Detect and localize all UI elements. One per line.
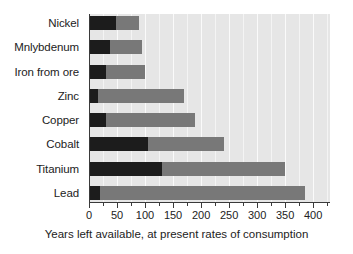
axis-tick-minor xyxy=(131,203,132,206)
x-axis-tick-labels: 050100150200250300350400 xyxy=(89,209,330,223)
axis-tick-minor xyxy=(271,203,272,206)
axis-tick-label: 50 xyxy=(111,209,123,221)
axis-tick xyxy=(89,203,90,208)
bar-segment-light xyxy=(116,16,140,30)
category-label: Copper xyxy=(0,111,84,129)
bar-row xyxy=(89,184,330,202)
category-label: Cobalt xyxy=(0,135,84,153)
bar-row xyxy=(89,160,330,178)
category-label: Lead xyxy=(0,184,84,202)
axis-tick-minor xyxy=(243,203,244,206)
axis-tick xyxy=(285,203,286,208)
axis-tick-label: 0 xyxy=(86,209,92,221)
category-label: Nickel xyxy=(0,14,84,32)
bar-segment-dark xyxy=(89,16,116,30)
bar-segment-light xyxy=(100,186,305,200)
axis-tick xyxy=(145,203,146,208)
bar-segment-dark xyxy=(89,113,106,127)
bar-row xyxy=(89,111,330,129)
axis-tick xyxy=(257,203,258,208)
axis-tick-label: 150 xyxy=(164,209,182,221)
axis-tick-label: 300 xyxy=(248,209,266,221)
axis-tick xyxy=(313,203,314,208)
bar-series-group xyxy=(89,14,330,202)
category-label: Mnlybdenum xyxy=(0,38,84,56)
axis-tick-minor xyxy=(299,203,300,206)
axis-tick-minor xyxy=(187,203,188,206)
bar-segment-light xyxy=(98,89,184,103)
x-axis-title: Years left available, at present rates o… xyxy=(0,228,353,240)
bar-segment-light xyxy=(106,113,196,127)
axis-tick-label: 400 xyxy=(304,209,322,221)
axis-tick-minor xyxy=(159,203,160,206)
bar-segment-light xyxy=(106,65,145,79)
category-axis-labels: NickelMnlybdenumIron from oreZincCopperC… xyxy=(0,14,84,202)
axis-tick xyxy=(173,203,174,208)
bar-row xyxy=(89,38,330,56)
y-axis-line xyxy=(89,14,90,202)
bar-segment-dark xyxy=(89,40,110,54)
plot-area xyxy=(89,14,330,202)
category-label: Zinc xyxy=(0,87,84,105)
bar-row xyxy=(89,63,330,81)
axis-tick xyxy=(117,203,118,208)
axis-tick-label: 350 xyxy=(276,209,294,221)
bar-segment-light xyxy=(162,162,285,176)
axis-tick-minor xyxy=(215,203,216,206)
axis-tick xyxy=(201,203,202,208)
bar-segment-dark xyxy=(89,186,100,200)
bar-row xyxy=(89,87,330,105)
bar-row xyxy=(89,135,330,153)
axis-tick-label: 250 xyxy=(220,209,238,221)
bar-segment-light xyxy=(148,137,224,151)
bar-segment-dark xyxy=(89,162,162,176)
bar-segment-light xyxy=(110,40,142,54)
axis-tick xyxy=(229,203,230,208)
bar-row xyxy=(89,14,330,32)
axis-tick-label: 200 xyxy=(192,209,210,221)
category-label: Iron from ore xyxy=(0,63,84,81)
bar-segment-dark xyxy=(89,65,106,79)
axis-tick-minor xyxy=(103,203,104,206)
axis-tick-label: 100 xyxy=(136,209,154,221)
category-label: Titanium xyxy=(0,160,84,178)
bar-chart: NickelMnlybdenumIron from oreZincCopperC… xyxy=(0,0,353,254)
bar-segment-dark xyxy=(89,137,148,151)
bar-segment-dark xyxy=(89,89,98,103)
axis-tick-minor xyxy=(327,203,328,206)
